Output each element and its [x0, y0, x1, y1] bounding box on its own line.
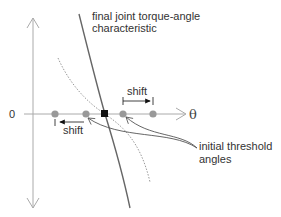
torque-angle-diagram: 0 θ shift shift final joint torque-angle…	[0, 0, 281, 217]
vertical-axis	[27, 18, 39, 208]
leader-line-right	[126, 117, 197, 148]
threshold-dot-left-inner	[82, 110, 89, 117]
final-characteristic-label-line1: final joint torque-angle	[92, 10, 200, 22]
initial-threshold-label-line2: angles	[199, 153, 232, 165]
intersection-marker	[101, 110, 108, 117]
shift-right-label: shift	[127, 85, 147, 97]
threshold-dot-left-outer	[51, 110, 58, 117]
final-characteristic-label-line2: characteristic	[92, 22, 157, 34]
origin-label: 0	[9, 108, 15, 120]
theta-axis-label: θ	[189, 107, 197, 122]
initial-threshold-label-line1: initial threshold	[199, 140, 272, 152]
shift-right-indicator: shift	[123, 85, 153, 105]
threshold-dot-right-inner	[119, 110, 126, 117]
shift-left-indicator: shift	[55, 119, 84, 136]
threshold-dot-right-outer	[149, 110, 156, 117]
shift-left-label: shift	[63, 124, 83, 136]
leader-line-left	[88, 118, 197, 148]
initial-characteristic-curve	[58, 58, 150, 182]
